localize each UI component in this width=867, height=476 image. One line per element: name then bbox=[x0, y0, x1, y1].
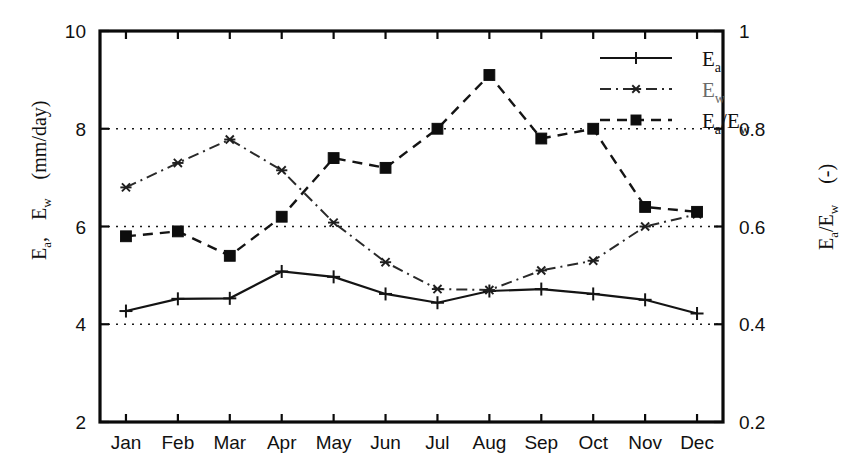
marker-square bbox=[640, 202, 651, 213]
line-chart: 246810 0.20.40.60.81 JanFebMarAprMayJunJ… bbox=[0, 0, 867, 476]
marker-square bbox=[692, 206, 703, 217]
y2-axis-title-ea-base: E bbox=[815, 238, 837, 250]
y2-tick-label: 0.2 bbox=[739, 412, 765, 433]
y-axis-title-ew-base: E bbox=[28, 208, 50, 220]
marker-square bbox=[484, 70, 495, 81]
x-tick-label: Sep bbox=[524, 432, 558, 453]
marker-square bbox=[380, 162, 391, 173]
marker-square bbox=[224, 250, 235, 261]
marker-square bbox=[172, 226, 183, 237]
x-tick-label: Jan bbox=[111, 432, 142, 453]
y-tick-label: 2 bbox=[75, 412, 86, 433]
y-axis-title-units: (mm/day) bbox=[28, 101, 51, 180]
x-tick-label: Oct bbox=[578, 432, 608, 453]
y2-axis-title-units: (-) bbox=[815, 164, 838, 184]
x-tick-label: Jun bbox=[370, 432, 401, 453]
y-tick-label: 8 bbox=[75, 119, 86, 140]
marker-square bbox=[432, 123, 443, 134]
y2-tick-label: 0.4 bbox=[739, 314, 766, 335]
y2-axis-title-slash: /E bbox=[815, 214, 837, 232]
y-axis-title-ew-sub: w bbox=[39, 198, 54, 208]
x-tick-label: May bbox=[316, 432, 352, 453]
marker-square bbox=[631, 115, 641, 125]
x-tick-label: Dec bbox=[680, 432, 714, 453]
y2-axis-title-ew-sub: w bbox=[826, 204, 841, 214]
marker-square bbox=[276, 211, 287, 222]
marker-square bbox=[588, 123, 599, 134]
x-tick-label: Nov bbox=[628, 432, 662, 453]
y-axis-title-comma: , bbox=[28, 237, 50, 242]
x-tick-label: Apr bbox=[267, 432, 297, 453]
y-tick-label: 6 bbox=[75, 217, 86, 238]
x-tick-label: Feb bbox=[162, 432, 195, 453]
y2-tick-label: 0.6 bbox=[739, 217, 765, 238]
figure-container: 246810 0.20.40.60.81 JanFebMarAprMayJunJ… bbox=[0, 0, 867, 476]
marker-square bbox=[121, 231, 132, 242]
marker-square bbox=[536, 133, 547, 144]
y-tick-label: 4 bbox=[75, 314, 86, 335]
marker-square bbox=[328, 153, 339, 164]
x-tick-label: Aug bbox=[472, 432, 506, 453]
x-tick-label: Jul bbox=[425, 432, 449, 453]
y-tick-label: 10 bbox=[65, 21, 86, 42]
x-tick-label: Mar bbox=[213, 432, 246, 453]
y2-tick-label: 1 bbox=[739, 21, 750, 42]
y-axis-title-ea-base: E bbox=[28, 248, 50, 260]
